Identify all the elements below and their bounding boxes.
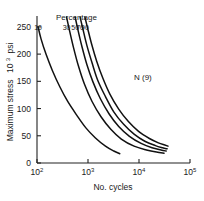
figure-container: 050100150200250 102103104105 1030507090 … [0, 0, 204, 201]
x-tick-base: 10 [133, 167, 143, 177]
curve-label-90: 90 [81, 24, 89, 31]
y-tick-label-group: 050100150200250 [17, 22, 31, 168]
y-tick-group [37, 27, 41, 163]
x-tick-label-group: 102103104105 [31, 167, 197, 177]
x-tick-group [37, 159, 190, 163]
y-axis-title-main: Maximum stress [5, 79, 15, 141]
x-axis-title: No. cycles [93, 182, 132, 192]
x-tick-label-10-3: 103 [82, 167, 95, 177]
curve-group [38, 17, 168, 154]
y-axis-title: Maximum stress 10 3 psi [2, 43, 15, 142]
curve-percentage-30 [67, 17, 164, 153]
x-tick-base: 10 [82, 167, 92, 177]
chart-svg: 050100150200250 102103104105 1030507090 … [0, 0, 204, 201]
y-axis-title-unit-base: 10 [5, 63, 15, 73]
y-tick-label-200: 200 [17, 49, 31, 59]
x-tick-exponent: 2 [40, 167, 44, 173]
x-tick-exponent: 4 [142, 167, 146, 173]
y-tick-label-50: 50 [22, 131, 32, 141]
x-tick-label-10-4: 104 [133, 167, 146, 177]
legend-header: Percentage [56, 13, 97, 22]
y-tick-label-250: 250 [17, 22, 31, 32]
x-tick-exponent: 5 [193, 167, 197, 173]
curve-label-10: 10 [34, 24, 42, 31]
x-tick-exponent: 3 [91, 167, 95, 173]
x-tick-base: 10 [184, 167, 194, 177]
x-tick-base: 10 [31, 167, 41, 177]
y-tick-label-100: 100 [17, 104, 31, 114]
axes-group [37, 16, 190, 163]
y-tick-label-150: 150 [17, 76, 31, 86]
x-tick-label-10-5: 105 [184, 167, 197, 177]
y-axis-title-unit-suffix: psi [5, 43, 15, 54]
svg-text:Maximum stress 10: Maximum stress 10 3 psi [2, 43, 15, 142]
chart-annotation: N (9) [134, 73, 152, 82]
x-tick-label-10-2: 102 [31, 167, 44, 177]
y-axis-title-unit-exp: 3 [5, 57, 11, 61]
curve-label-30: 30 [63, 24, 71, 31]
curve-label-group: 1030507090 [34, 24, 89, 31]
